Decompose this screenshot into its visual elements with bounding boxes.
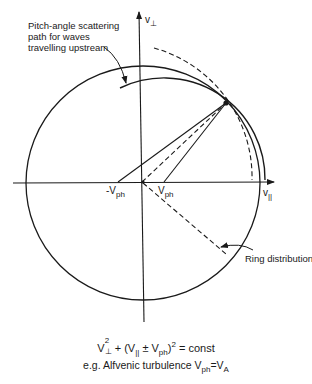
example-text: e.g. Alfvenic turbulence Vph=VA [0, 358, 312, 377]
ring-distribution-label: Ring distribution [245, 253, 312, 264]
scattering-path-annotation: Pitch-angle scattering path for waves tr… [28, 20, 119, 53]
annotation-line-3: travelling upstream [28, 42, 119, 53]
origin-point [141, 180, 144, 183]
line-from-plus-vph [164, 103, 226, 182]
v-parallel-label: v|| [263, 187, 272, 202]
line-from-minus-vph [118, 103, 226, 182]
formula-perp-squared: 2⊥ [105, 342, 112, 352]
intersection-point [223, 100, 228, 105]
line-from-origin-dashed [142, 103, 226, 182]
v-perp-label: v⊥ [145, 14, 157, 29]
minus-vph-label: -Vph [106, 185, 125, 200]
v-perp-axis [139, 12, 144, 322]
annotation-line-1: Pitch-angle scattering [28, 20, 119, 31]
ring-distribution-arrow [221, 245, 253, 250]
annotation-line-2: path for waves [28, 31, 119, 42]
formula: V2⊥ + (V|| ± Vph)2 = const [0, 338, 312, 360]
plus-vph-label: Vph [158, 185, 174, 200]
ring-distribution-dashed-line [143, 183, 226, 254]
